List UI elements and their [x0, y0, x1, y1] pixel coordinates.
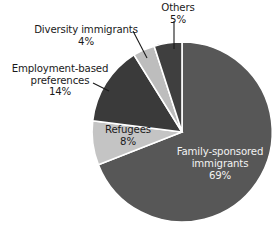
slice-label-family-sponsored: Family-sponsored immigrants 69% — [168, 146, 272, 181]
slice-label-employment-percent: 14% — [1, 86, 119, 98]
slice-label-family-name-line2: immigrants — [168, 158, 272, 170]
slice-label-others-name: Others — [147, 2, 209, 14]
slice-label-diversity-name: Diversity immigrants — [22, 24, 150, 36]
slice-label-family-percent: 69% — [168, 170, 272, 182]
slice-label-refugees-percent: 8% — [95, 136, 161, 148]
slice-label-employment-name-line1: Employment-based — [1, 63, 119, 75]
slice-label-others-percent: 5% — [147, 14, 209, 26]
slice-label-employment-name-line2: preferences — [1, 75, 119, 87]
slice-label-employment-based: Employment-based preferences 14% — [1, 63, 119, 98]
pie-chart-figure: Others 5% Diversity immigrants 4% Employ… — [0, 0, 278, 229]
slice-label-refugees: Refugees 8% — [95, 124, 161, 148]
slice-label-family-name-line1: Family-sponsored — [168, 146, 272, 158]
slice-label-diversity-percent: 4% — [22, 36, 150, 48]
slice-label-others: Others 5% — [147, 2, 209, 25]
slice-label-refugees-name: Refugees — [95, 124, 161, 136]
slice-label-diversity-immigrants: Diversity immigrants 4% — [22, 24, 150, 47]
